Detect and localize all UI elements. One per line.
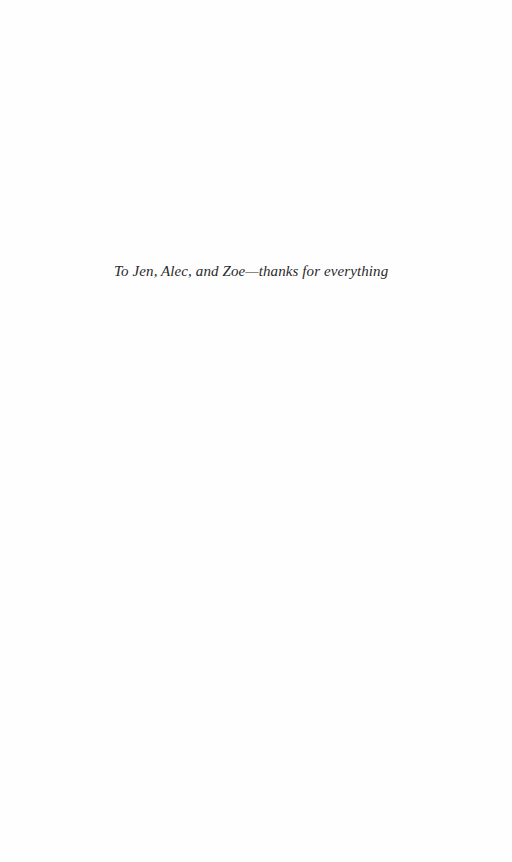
book-page: To Jen, Alec, and Zoe—thanks for everyth… [0, 0, 512, 862]
dedication-text: To Jen, Alec, and Zoe—thanks for everyth… [114, 263, 388, 280]
